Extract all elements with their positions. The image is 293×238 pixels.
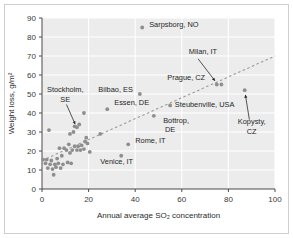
point-label: Bilbao, ES <box>98 85 133 94</box>
data-point <box>84 136 88 140</box>
data-point <box>65 148 69 152</box>
data-point <box>220 83 224 87</box>
x-axis-tick-labels: 020406080100 <box>40 195 282 204</box>
data-point <box>61 162 65 166</box>
point-label: Essen, DE <box>114 98 149 107</box>
data-point <box>69 161 73 165</box>
data-point <box>75 148 79 152</box>
data-point <box>41 158 45 162</box>
point-label: Stockholm, <box>47 85 84 94</box>
x-tick-label: 60 <box>177 195 186 204</box>
point-label: Kopysty, <box>238 117 266 126</box>
y-axis-title: Weight loss, g/m² <box>7 72 16 134</box>
point-label: CZ <box>247 127 257 136</box>
point-label: Prague, CZ <box>167 73 205 82</box>
figure-container: Sarpsborg, NOMilan, ITPrague, CZKopysty,… <box>0 0 293 238</box>
x-tick-label: 0 <box>40 195 45 204</box>
data-point <box>44 161 48 165</box>
data-point <box>59 166 63 170</box>
data-point <box>152 114 156 118</box>
x-tick-label: 40 <box>131 195 140 204</box>
data-point <box>138 92 142 96</box>
data-point <box>45 158 49 162</box>
data-point <box>243 88 247 92</box>
data-point <box>77 123 81 127</box>
data-point <box>55 157 59 161</box>
data-point <box>68 151 72 155</box>
x-tick-label: 100 <box>268 195 282 204</box>
y-tick-label: 50 <box>27 90 36 99</box>
data-point <box>76 144 80 148</box>
y-tick-label: 70 <box>27 52 36 61</box>
data-point <box>49 159 53 163</box>
data-point <box>82 111 86 115</box>
data-point <box>66 161 70 165</box>
x-tick-label: 80 <box>224 195 233 204</box>
point-label: Bottrop, <box>163 116 189 125</box>
data-point <box>79 148 83 152</box>
data-point <box>58 146 62 150</box>
data-point <box>46 166 50 170</box>
data-point <box>88 150 92 154</box>
data-point <box>60 154 64 158</box>
point-label: Milan, IT <box>189 47 218 56</box>
data-point <box>72 130 76 134</box>
point-label: Venice, IT <box>100 157 133 166</box>
y-tick-label: 20 <box>27 147 36 156</box>
point-label: Sarpsborg, NO <box>149 20 199 29</box>
data-point <box>73 124 77 128</box>
y-tick-label: 10 <box>27 166 36 175</box>
scatter-plot: Sarpsborg, NOMilan, ITPrague, CZKopysty,… <box>0 0 293 238</box>
y-tick-label: 0 <box>32 185 37 194</box>
data-point <box>168 104 172 108</box>
y-tick-label: 40 <box>27 109 36 118</box>
y-tick-label: 80 <box>27 33 36 42</box>
point-label: Steubenville, USA <box>175 100 235 109</box>
y-tick-label: 30 <box>27 128 36 137</box>
data-point <box>82 147 86 151</box>
data-point <box>126 142 130 146</box>
data-point <box>215 83 219 87</box>
data-point <box>67 142 71 146</box>
point-label: Rome, IT <box>135 136 166 145</box>
data-point <box>86 142 90 146</box>
data-point <box>73 144 77 148</box>
plot-background-group <box>42 18 275 189</box>
data-point <box>56 161 60 165</box>
x-axis-title: Annual average SO₂ concentration <box>97 211 220 220</box>
data-point <box>52 173 56 177</box>
data-point <box>47 128 51 132</box>
data-point <box>48 162 52 166</box>
data-point <box>68 132 72 136</box>
plot-background <box>42 18 275 189</box>
data-point <box>54 165 58 169</box>
y-tick-label: 90 <box>27 14 36 23</box>
point-label: SE <box>60 95 70 104</box>
y-axis-tick-labels: 0102030405060708090 <box>27 14 36 194</box>
data-point <box>140 26 144 30</box>
data-point <box>98 132 102 136</box>
point-label: DE <box>165 125 175 134</box>
y-tick-label: 60 <box>27 71 36 80</box>
data-point <box>105 107 109 111</box>
x-tick-label: 20 <box>84 195 93 204</box>
data-point <box>51 167 55 171</box>
data-point <box>80 143 84 147</box>
